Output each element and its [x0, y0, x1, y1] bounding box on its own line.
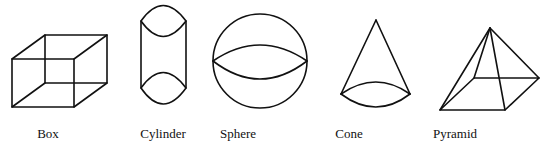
- cylinder-label: Cylinder: [140, 126, 186, 142]
- cone-label: Cone: [335, 126, 362, 142]
- cylinder-shape: [141, 6, 186, 105]
- sphere-label: Sphere: [220, 126, 256, 142]
- pyramid-shape: [440, 28, 539, 110]
- box-label: Box: [37, 126, 59, 142]
- pyramid-label: Pyramid: [433, 126, 477, 142]
- box-shape: [12, 35, 107, 107]
- cone-shape: [341, 20, 410, 107]
- sphere-shape: [213, 14, 307, 108]
